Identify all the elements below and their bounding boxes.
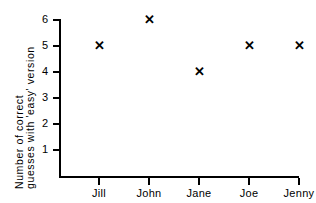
y-tick-5: [53, 45, 60, 47]
scatter-chart: Number of correct guesses with 'easy' ve…: [0, 0, 316, 203]
y-tick-label-4: 4: [28, 66, 48, 77]
y-tick-3: [53, 97, 60, 99]
x-tick-jill: [98, 178, 100, 185]
y-tick-2: [53, 123, 60, 125]
data-point-john: ✕: [141, 12, 157, 28]
data-point-joe: ✕: [241, 38, 257, 54]
y-tick-label-6: 6: [28, 14, 48, 25]
x-tick-label-jenny: Jenny: [269, 187, 316, 199]
x-axis-line: [59, 176, 299, 178]
y-tick-label-2: 2: [28, 118, 48, 129]
data-point-jane: ✕: [191, 64, 207, 80]
y-tick-label-1: 1: [28, 144, 48, 155]
data-point-jenny: ✕: [291, 38, 307, 54]
y-tick-4: [53, 71, 60, 73]
x-tick-joe: [248, 178, 250, 185]
y-tick-label-3: 3: [28, 92, 48, 103]
x-tick-john: [148, 178, 150, 185]
y-tick-6: [53, 19, 60, 21]
x-tick-jane: [198, 178, 200, 185]
x-tick-jenny: [298, 178, 300, 185]
data-point-jill: ✕: [91, 38, 107, 54]
y-tick-label-5: 5: [28, 40, 48, 51]
y-tick-1: [53, 149, 60, 151]
